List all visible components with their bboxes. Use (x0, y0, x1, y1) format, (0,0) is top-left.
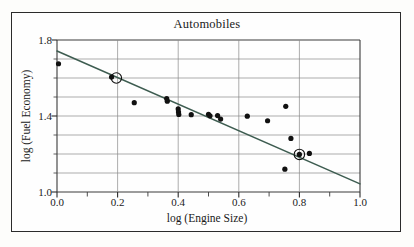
data-point (207, 113, 212, 118)
axis-ticks (52, 40, 361, 198)
x-tick-label: 0.2 (111, 196, 125, 208)
data-point (218, 116, 223, 121)
scatter-plot-canvas (0, 0, 414, 247)
y-tick-label: 1.0 (18, 186, 52, 198)
data-point (132, 100, 137, 105)
y-tick-label: 1.4 (18, 110, 52, 122)
x-axis-title: log (Engine Size) (0, 212, 414, 224)
data-point (282, 167, 287, 172)
data-point (176, 112, 181, 117)
chart-title: Automobiles (0, 17, 414, 32)
data-point (56, 61, 61, 66)
y-tick-label: 1.8 (18, 34, 52, 46)
data-point (189, 112, 194, 117)
x-tick-label: 1.0 (353, 196, 367, 208)
figure-root: Automobiles log (Engine Size) log (Fuel … (0, 0, 414, 247)
data-point (297, 152, 302, 157)
x-tick-label: 0.8 (293, 196, 307, 208)
data-point (165, 99, 170, 104)
x-tick-label: 0.0 (50, 196, 64, 208)
data-point (265, 118, 270, 123)
x-tick-label: 0.4 (171, 196, 185, 208)
x-tick-label: 0.6 (232, 196, 246, 208)
data-point (245, 114, 250, 119)
data-point (288, 136, 293, 141)
data-point (283, 104, 288, 109)
data-point (307, 151, 312, 156)
